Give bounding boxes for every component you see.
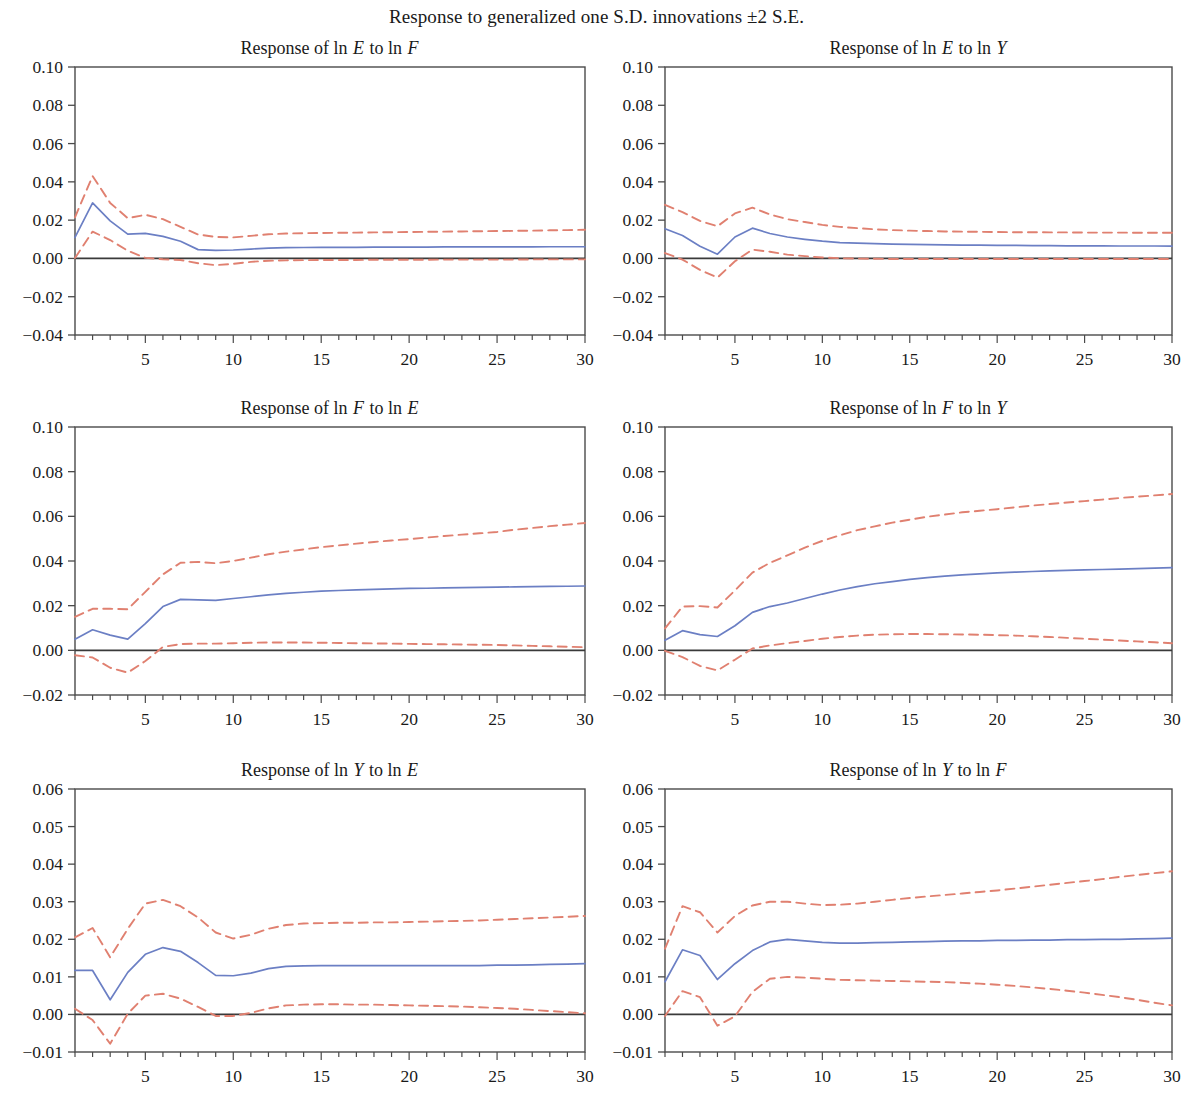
y-tick-label: −0.01 bbox=[613, 1042, 654, 1062]
panel-response-lnF-to-lnY: Response of ln F to ln Y −0.020.000.020.… bbox=[590, 398, 1193, 760]
x-tick-label: 20 bbox=[988, 349, 1006, 369]
series-line-response bbox=[75, 948, 585, 1000]
plot-area-response-lnF-to-lnE: −0.020.000.020.040.060.080.1051015202530 bbox=[0, 398, 596, 760]
x-tick-label: 25 bbox=[488, 1066, 506, 1086]
y-tick-label: 0.00 bbox=[622, 1004, 653, 1024]
x-tick-label: 20 bbox=[988, 1066, 1006, 1086]
series-line-lower-2-s-e bbox=[75, 643, 585, 673]
y-tick-label: 0.05 bbox=[32, 817, 63, 837]
x-tick-label: 10 bbox=[225, 709, 243, 729]
y-tick-label: 0.08 bbox=[32, 95, 63, 115]
x-tick-label: 15 bbox=[312, 709, 330, 729]
x-tick-label: 5 bbox=[731, 709, 740, 729]
y-tick-label: 0.00 bbox=[32, 248, 63, 268]
plot-area-response-lnF-to-lnY: −0.020.000.020.040.060.080.1051015202530 bbox=[590, 398, 1193, 760]
x-tick-label: 5 bbox=[141, 1066, 150, 1086]
y-tick-label: 0.06 bbox=[622, 506, 653, 526]
y-tick-label: 0.08 bbox=[622, 95, 653, 115]
panel-response-lnY-to-lnE: Response of ln Y to ln E −0.010.000.010.… bbox=[0, 760, 596, 1111]
impulse-response-figure: Response to generalized one S.D. innovat… bbox=[0, 0, 1193, 1111]
x-tick-label: 10 bbox=[225, 349, 243, 369]
x-tick-label: 5 bbox=[731, 1066, 740, 1086]
series-line-lower-2-s-e bbox=[665, 250, 1172, 278]
series-line-response bbox=[665, 568, 1172, 641]
y-tick-label: 0.02 bbox=[32, 596, 63, 616]
y-tick-label: 0.02 bbox=[32, 210, 63, 230]
y-tick-label: 0.01 bbox=[32, 967, 63, 987]
y-tick-label: −0.04 bbox=[23, 325, 64, 345]
y-tick-label: 0.04 bbox=[32, 172, 63, 192]
x-tick-label: 10 bbox=[814, 349, 832, 369]
x-tick-label: 20 bbox=[400, 709, 418, 729]
panel-response-lnY-to-lnF: Response of ln Y to ln F −0.010.000.010.… bbox=[590, 760, 1193, 1111]
y-tick-label: 0.06 bbox=[32, 506, 63, 526]
y-tick-label: 0.10 bbox=[32, 57, 63, 77]
x-tick-label: 10 bbox=[814, 709, 832, 729]
plot-frame bbox=[665, 789, 1172, 1052]
series-line-response bbox=[75, 203, 585, 250]
series-line-upper-2-s-e bbox=[665, 205, 1172, 233]
series-line-upper-2-s-e bbox=[75, 176, 585, 237]
y-tick-label: 0.00 bbox=[622, 640, 653, 660]
y-tick-label: −0.04 bbox=[613, 325, 654, 345]
series-line-lower-2-s-e bbox=[75, 994, 585, 1044]
x-tick-label: 15 bbox=[901, 349, 919, 369]
x-tick-label: 30 bbox=[1163, 1066, 1181, 1086]
x-tick-label: 15 bbox=[312, 1066, 330, 1086]
x-tick-label: 25 bbox=[488, 349, 506, 369]
y-tick-label: 0.02 bbox=[622, 596, 653, 616]
y-tick-label: 0.01 bbox=[622, 967, 653, 987]
y-tick-label: 0.02 bbox=[622, 210, 653, 230]
y-tick-label: −0.02 bbox=[613, 685, 654, 705]
y-tick-label: 0.10 bbox=[622, 57, 653, 77]
x-tick-label: 30 bbox=[1163, 709, 1181, 729]
x-tick-label: 5 bbox=[141, 709, 150, 729]
x-tick-label: 25 bbox=[1076, 709, 1094, 729]
plot-frame bbox=[75, 67, 585, 335]
x-tick-label: 15 bbox=[312, 349, 330, 369]
figure-title: Response to generalized one S.D. innovat… bbox=[0, 6, 1193, 28]
plot-frame bbox=[75, 427, 585, 695]
y-tick-label: 0.06 bbox=[622, 134, 653, 154]
x-tick-label: 30 bbox=[1163, 349, 1181, 369]
plot-area-response-lnY-to-lnF: −0.010.000.010.020.030.040.050.065101520… bbox=[590, 760, 1193, 1111]
series-line-upper-2-s-e bbox=[75, 523, 585, 617]
y-tick-label: 0.10 bbox=[32, 417, 63, 437]
y-tick-label: 0.06 bbox=[32, 779, 63, 799]
y-tick-label: 0.04 bbox=[622, 551, 653, 571]
x-tick-label: 25 bbox=[1076, 349, 1094, 369]
series-line-upper-2-s-e bbox=[75, 900, 585, 957]
y-tick-label: 0.04 bbox=[622, 854, 653, 874]
y-tick-label: 0.00 bbox=[32, 1004, 63, 1024]
y-tick-label: 0.06 bbox=[622, 779, 653, 799]
x-tick-label: 20 bbox=[400, 349, 418, 369]
y-tick-label: −0.02 bbox=[23, 287, 64, 307]
y-tick-label: 0.06 bbox=[32, 134, 63, 154]
y-tick-label: 0.10 bbox=[622, 417, 653, 437]
y-tick-label: −0.02 bbox=[613, 287, 654, 307]
series-line-response bbox=[75, 586, 585, 639]
y-tick-label: 0.05 bbox=[622, 817, 653, 837]
series-line-lower-2-s-e bbox=[665, 977, 1172, 1026]
plot-frame bbox=[665, 67, 1172, 335]
x-tick-label: 10 bbox=[225, 1066, 243, 1086]
x-tick-label: 15 bbox=[901, 709, 919, 729]
plot-area-response-lnE-to-lnY: −0.04−0.020.000.020.040.060.080.10510152… bbox=[590, 38, 1193, 400]
y-tick-label: 0.04 bbox=[32, 854, 63, 874]
x-tick-label: 25 bbox=[488, 709, 506, 729]
y-tick-label: 0.03 bbox=[32, 892, 63, 912]
y-tick-label: −0.02 bbox=[23, 685, 64, 705]
y-tick-label: 0.08 bbox=[622, 462, 653, 482]
series-line-lower-2-s-e bbox=[75, 232, 585, 266]
plot-area-response-lnE-to-lnF: −0.04−0.020.000.020.040.060.080.10510152… bbox=[0, 38, 596, 400]
y-tick-label: 0.02 bbox=[622, 929, 653, 949]
plot-area-response-lnY-to-lnE: −0.010.000.010.020.030.040.050.065101520… bbox=[0, 760, 596, 1111]
x-tick-label: 5 bbox=[731, 349, 740, 369]
series-line-upper-2-s-e bbox=[665, 871, 1172, 948]
plot-frame bbox=[75, 789, 585, 1052]
panel-response-lnE-to-lnY: Response of ln E to ln Y −0.04−0.020.000… bbox=[590, 38, 1193, 400]
x-tick-label: 15 bbox=[901, 1066, 919, 1086]
panel-response-lnF-to-lnE: Response of ln F to ln E −0.020.000.020.… bbox=[0, 398, 596, 760]
x-tick-label: 5 bbox=[141, 349, 150, 369]
y-tick-label: 0.03 bbox=[622, 892, 653, 912]
